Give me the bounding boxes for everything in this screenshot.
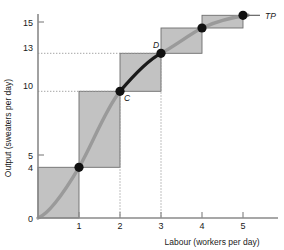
x-tick-label-4: 4	[199, 221, 204, 231]
y-axis-title: Output (sweaters per day)	[3, 79, 13, 177]
data-point-4[interactable]	[197, 23, 206, 32]
y-tick-label-0: 0	[28, 214, 33, 224]
data-point-1[interactable]	[74, 163, 83, 172]
x-tick-label-3: 3	[158, 221, 163, 231]
chart-figure: 15 13 10 5 4 0 1 2 3 4 5 TP C D Output (…	[0, 0, 284, 250]
tp-curve-label: TP	[265, 11, 276, 21]
x-tick-label-1: 1	[76, 221, 81, 231]
y-tick-label-13: 13	[23, 43, 33, 53]
x-axis-ticks	[79, 212, 243, 218]
point-label-d: D	[153, 40, 159, 50]
y-tick-label-5: 5	[28, 151, 33, 161]
total-product-chart: 15 13 10 5 4 0 1 2 3 4 5 TP C D Output (…	[0, 0, 284, 250]
data-point-5[interactable]	[238, 11, 247, 20]
x-axis-title: Labour (workers per day)	[165, 237, 260, 247]
x-tick-label-2: 2	[117, 221, 122, 231]
y-axis-ticks	[38, 22, 44, 155]
y-tick-label-15: 15	[23, 18, 33, 28]
y-tick-label-4: 4	[28, 163, 33, 173]
point-label-c: C	[124, 93, 131, 103]
data-point-d[interactable]	[156, 49, 165, 58]
y-tick-label-10: 10	[23, 81, 33, 91]
x-tick-label-5: 5	[240, 221, 245, 231]
marginal-product-bars	[38, 15, 243, 218]
